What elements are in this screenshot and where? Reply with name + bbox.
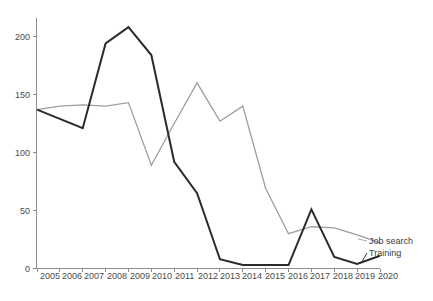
legend-leader-job-search [358,239,367,241]
x-tick-label-2011: 2011 [175,271,194,281]
x-tick-label-2014: 2014 [242,271,262,281]
legend-label-training: Training [369,248,401,258]
y-tick-label-0: 0 [25,264,30,274]
chart-canvas: 0 50 100 150 200 2005 2006 2007 2008 200… [0,0,433,301]
x-tick-label-2015: 2015 [265,271,285,281]
x-tick-label-2017: 2017 [310,271,330,281]
x-tick-label-2019: 2019 [355,271,375,281]
x-tick-label-2016: 2016 [288,271,308,281]
x-tick-label-2020: 2020 [378,271,398,281]
series-line-training [37,27,380,265]
y-tick-label-50: 50 [20,206,30,216]
x-tick-label-2008: 2008 [107,271,127,281]
x-tick-label-2013: 2013 [220,271,240,281]
x-tick-label-2018: 2018 [333,271,353,281]
y-tick-label-100: 100 [15,148,30,158]
x-tick-label-2006: 2006 [62,271,82,281]
y-tick-label-200: 200 [15,32,30,42]
line-chart: 0 50 100 150 200 2005 2006 2007 2008 200… [0,0,433,301]
x-tick-label-2007: 2007 [84,271,104,281]
y-tick-label-150: 150 [15,90,30,100]
x-tick-label-2010: 2010 [152,271,172,281]
legend-label-job-search: Job search [369,236,413,246]
x-tick-label-2005: 2005 [40,271,60,281]
x-tick-label-2009: 2009 [130,271,150,281]
x-tick-label-2012: 2012 [198,271,218,281]
